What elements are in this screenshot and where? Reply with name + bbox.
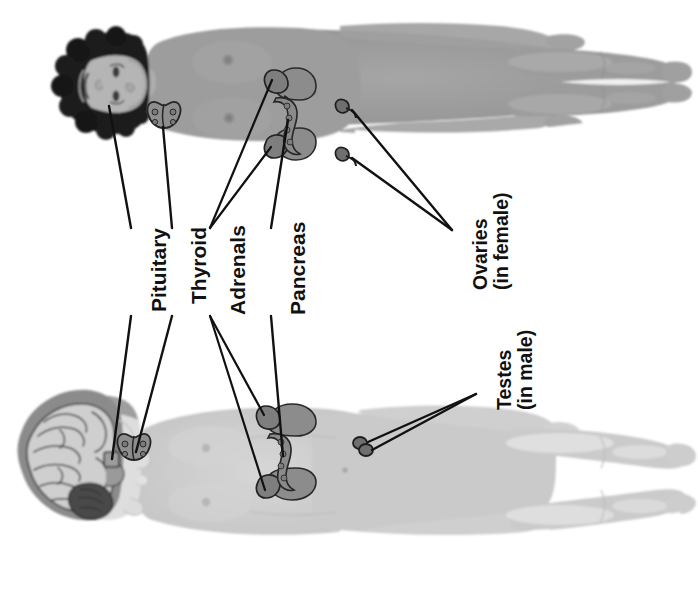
label-testes-line-1: Testes bbox=[494, 330, 515, 410]
labels-layer: Pituitary Thyroid Adrenals Pancreas Ovar… bbox=[0, 0, 698, 604]
label-pituitary-line-1: Pituitary bbox=[148, 228, 170, 312]
label-testes: Testes (in male) bbox=[494, 330, 536, 410]
endocrine-diagram-canvas: Pituitary Thyroid Adrenals Pancreas Ovar… bbox=[0, 0, 698, 604]
label-ovaries: Ovaries (in female) bbox=[470, 192, 512, 290]
label-thyroid-line-1: Thyroid bbox=[188, 227, 210, 304]
label-pancreas-line-1: Pancreas bbox=[287, 222, 309, 315]
label-ovaries-line-1: Ovaries bbox=[470, 192, 491, 290]
label-testes-line-2: (in male) bbox=[515, 330, 536, 410]
label-adrenals: Adrenals bbox=[227, 225, 249, 315]
label-pancreas: Pancreas bbox=[287, 222, 309, 315]
label-pituitary: Pituitary bbox=[148, 228, 170, 312]
label-thyroid: Thyroid bbox=[188, 227, 210, 304]
label-ovaries-line-2: (in female) bbox=[491, 192, 512, 290]
label-adrenals-line-1: Adrenals bbox=[227, 225, 249, 315]
